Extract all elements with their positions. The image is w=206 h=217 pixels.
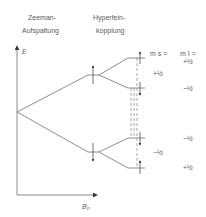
zeeman-heading-line1: Zeeman-	[28, 14, 56, 21]
zeeman-heading-line2: Aufspaltung	[22, 27, 59, 34]
ms-value-upper: +½	[153, 70, 163, 77]
mi-value-4: +½	[183, 164, 193, 171]
axes	[17, 46, 97, 195]
hyperfine-heading-line2: kopplung	[96, 27, 124, 34]
zeeman-split-lines	[17, 75, 99, 152]
hyperfine-heading-line1: Hyperfein-	[93, 14, 125, 21]
mi-value-3: −½	[183, 135, 193, 142]
mi-header: m I =	[180, 50, 196, 57]
mi-value-2: −½	[183, 85, 193, 92]
mi-value-1: +½	[183, 58, 193, 65]
x-axis-label: B₀	[82, 203, 90, 210]
y-axis-label: E	[22, 48, 27, 55]
ms-header: m s =	[150, 50, 167, 57]
transition-dashed-lines	[131, 58, 137, 168]
ms-value-lower: −½	[153, 149, 163, 156]
hyperfine-split-lines	[99, 58, 145, 168]
